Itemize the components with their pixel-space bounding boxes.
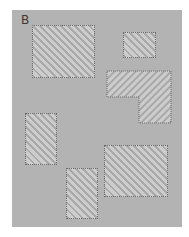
- hatched-rectangle-bottom-right: [104, 145, 168, 197]
- hatched-rectangle-middle-left: [25, 113, 57, 165]
- l-shape-polygon: [107, 71, 171, 123]
- hatched-rectangle-bottom-middle: [66, 168, 98, 219]
- figure-panel: B: [12, 10, 182, 227]
